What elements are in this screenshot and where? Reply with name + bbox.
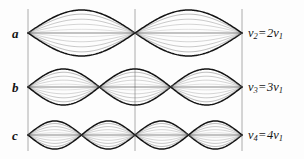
frequency-label-c: v4=4v1	[248, 129, 283, 143]
equals-sign-a: =	[258, 26, 267, 40]
frequency-label-a: v2=2v1	[248, 27, 283, 41]
standing-wave-figure: a b c v2=2v1 v3=3v1 v4=4v1	[0, 0, 304, 159]
frequency-base-subscript-b: 1	[279, 85, 283, 95]
row-label-c: c	[12, 129, 18, 142]
equals-sign-b: =	[258, 80, 267, 94]
frequency-base-subscript-a: 1	[279, 31, 283, 41]
frequency-base-subscript-c: 1	[279, 133, 283, 143]
row-label-a: a	[12, 27, 19, 40]
row-label-b: b	[12, 81, 19, 94]
frequency-label-b: v3=3v1	[248, 81, 283, 95]
equals-sign-c: =	[258, 128, 267, 142]
